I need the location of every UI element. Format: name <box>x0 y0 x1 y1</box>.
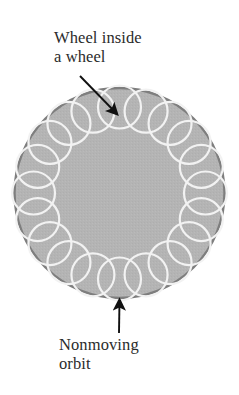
label-wheel-inside-a-wheel: Wheel inside a wheel <box>54 28 142 66</box>
pointer-to-outer-orbit <box>119 300 120 333</box>
label-nonmoving-orbit: Nonmoving orbit <box>59 335 139 373</box>
figure-root: Wheel inside a wheel Nonmoving orbit <box>0 0 239 395</box>
nonmoving-orbit-disc <box>15 88 225 298</box>
